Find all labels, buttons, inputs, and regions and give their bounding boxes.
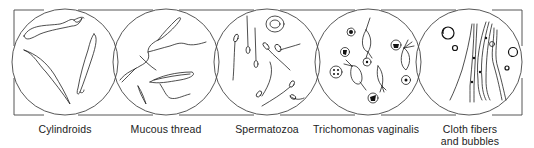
caption-trichomonas-vaginalis: Trichomonas vaginalis xyxy=(313,123,419,135)
caption-line-2: and bubbles xyxy=(441,135,499,147)
caption-cylindroids: Cylindroids xyxy=(38,123,91,135)
caption-spermatozoa: Spermatozoa xyxy=(235,123,299,135)
viewing-circles xyxy=(12,9,522,115)
spermatozoa-drawing xyxy=(233,16,304,106)
microscopy-figure: Cylindroids Mucous thread Spermatozoa Tr… xyxy=(0,0,534,148)
cloth-fibers-bubbles-drawing xyxy=(442,22,518,102)
caption-mucous-thread: Mucous thread xyxy=(131,123,202,135)
caption-cloth-fibers-bubbles: Cloth fibers and bubbles xyxy=(441,123,499,147)
caption-line-1: Cloth fibers xyxy=(441,123,499,135)
mucous-thread-drawing xyxy=(120,18,206,104)
trichomonas-drawing xyxy=(330,18,414,103)
cylindroids-drawing xyxy=(24,17,96,104)
